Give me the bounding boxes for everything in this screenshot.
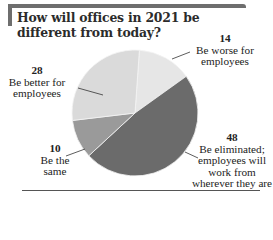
text-worse: Be worse for employees bbox=[196, 44, 254, 68]
slice-better bbox=[72, 50, 139, 120]
label-better: 28 Be better for employees bbox=[2, 65, 72, 100]
text-better: Be better for employees bbox=[9, 76, 66, 100]
label-eliminated: 48 Be eliminated; employees will work fr… bbox=[190, 132, 273, 190]
label-same: 10 Be the same bbox=[30, 143, 80, 178]
text-same: Be the same bbox=[41, 154, 70, 178]
label-worse: 14 Be worse for employees bbox=[180, 33, 270, 68]
text-eliminated: Be eliminated; employees will work from … bbox=[192, 143, 272, 190]
bottom-rule bbox=[22, 190, 260, 191]
